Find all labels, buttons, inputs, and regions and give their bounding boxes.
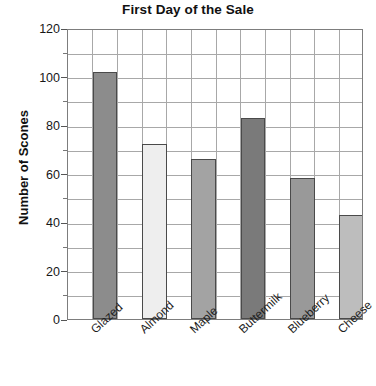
bar-glazed bbox=[93, 72, 118, 319]
y-tick-label: 60 bbox=[20, 168, 60, 182]
chart-title: First Day of the Sale bbox=[0, 2, 376, 17]
y-tick-mark-minor bbox=[63, 247, 67, 248]
y-tick-mark-major bbox=[61, 271, 67, 272]
y-tick-mark-major bbox=[61, 223, 67, 224]
y-tick-label: 120 bbox=[20, 22, 60, 36]
bar-buttermilk bbox=[241, 118, 266, 319]
y-tick-label: 0 bbox=[20, 313, 60, 327]
y-axis-tick-labels: 020406080100120 bbox=[16, 29, 60, 320]
bar-maple bbox=[191, 159, 216, 319]
y-tick-mark-minor bbox=[63, 101, 67, 102]
y-tick-label: 80 bbox=[20, 119, 60, 133]
y-tick-mark-major bbox=[61, 174, 67, 175]
y-tick-mark-minor bbox=[63, 53, 67, 54]
y-tick-mark-minor bbox=[63, 295, 67, 296]
plot-area bbox=[67, 29, 363, 320]
bar-chart: First Day of the Sale Number of Scones 0… bbox=[0, 0, 376, 386]
y-tick-mark-minor bbox=[63, 198, 67, 199]
y-tick-label: 100 bbox=[20, 71, 60, 85]
y-tick-mark-major bbox=[61, 126, 67, 127]
y-tick-mark-major bbox=[61, 320, 67, 321]
y-tick-mark-major bbox=[61, 77, 67, 78]
bar-almond bbox=[142, 144, 167, 319]
y-tick-mark-minor bbox=[63, 150, 67, 151]
y-tick-mark-major bbox=[61, 29, 67, 30]
y-tick-label: 40 bbox=[20, 216, 60, 230]
y-tick-label: 20 bbox=[20, 265, 60, 279]
bar-cheese bbox=[339, 215, 363, 319]
bar-blueberry bbox=[290, 178, 315, 319]
